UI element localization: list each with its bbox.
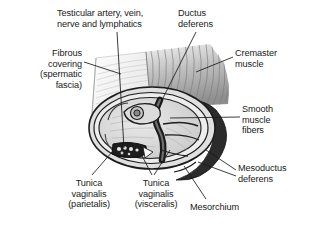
vessel-lumen-4 [135,148,138,151]
label-cremaster-muscle: Cremaster muscle [235,48,315,69]
spermatic-cord-oval [89,87,215,172]
anatomical-diagram-page: Testicular artery, vein, nerve and lymph… [0,0,320,228]
vessel-lumen-1 [117,147,121,151]
label-tunica-vaginalis-visceralis: Tunica vaginalis (visceralis) [125,178,187,210]
label-ductus-deferens: Ductus deferens [178,8,248,29]
leader-tunica-parietalis [92,152,112,175]
vessel-lumen-5 [121,152,124,155]
label-mesoductus-deferens: Mesoductus deferens [238,163,318,184]
vessel-lumen-3 [129,147,133,151]
label-mesorchium: Mesorchium [190,202,262,213]
label-tunica-vaginalis-parietalis: Tunica vaginalis (parietalis) [58,178,120,210]
label-fibrous-covering: Fibrous covering (spermatic fascia) [6,48,82,90]
vessel-lumen-6 [128,153,131,156]
label-testicular-vessels: Testicular artery, vein, nerve and lymph… [57,8,179,29]
vascular-coil-inner [134,110,140,116]
label-smooth-muscle-fibers: Smooth muscle fibers [242,104,316,136]
